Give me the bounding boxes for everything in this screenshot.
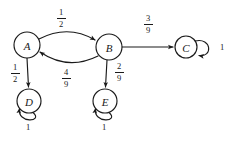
edge-label-b-to-e-numerator: 2	[111, 62, 127, 71]
edge-b-to-a	[40, 52, 98, 63]
edge-a-to-b	[39, 32, 95, 40]
edge-label-e-self-loop: 1	[98, 123, 110, 132]
edge-label-b-to-c-denominator: 9	[140, 25, 156, 34]
node-d-label: D	[24, 96, 33, 108]
node-e-label: E	[101, 96, 109, 108]
edge-label-a-to-b-numerator: 1	[53, 8, 69, 17]
node-c[interactable]: C	[175, 36, 197, 58]
edge-label-b-to-a-denominator: 9	[58, 79, 74, 88]
edge-label-b-to-a: 4 9	[58, 68, 74, 88]
edge-a-to-d	[27, 58, 29, 87]
edge-label-c-self-loop: 1	[216, 43, 228, 52]
state-transition-diagram: A B C D E 1 2 4 9 3 9 1	[0, 0, 236, 143]
edge-label-b-to-a-numerator: 4	[58, 68, 74, 77]
node-d[interactable]: D	[17, 89, 41, 113]
edge-label-b-to-c: 3 9	[140, 14, 156, 34]
edge-label-b-to-e-denominator: 9	[111, 73, 127, 82]
edge-label-b-to-c-numerator: 3	[140, 14, 156, 23]
edge-label-a-to-b: 1 2	[53, 8, 69, 28]
edge-label-b-to-e: 2 9	[111, 62, 127, 82]
edge-label-a-to-d-numerator: 1	[7, 63, 23, 72]
node-a-label: A	[23, 40, 31, 52]
node-b-label: B	[106, 42, 113, 54]
edge-b-to-e	[106, 60, 108, 87]
node-a[interactable]: A	[14, 32, 40, 58]
edge-label-a-to-d: 1 2	[7, 63, 23, 83]
node-b[interactable]: B	[96, 34, 122, 60]
edge-label-a-to-b-denominator: 2	[53, 19, 69, 28]
node-e[interactable]: E	[93, 89, 117, 113]
node-c-label: C	[182, 42, 190, 54]
edge-label-a-to-d-denominator: 2	[7, 74, 23, 83]
edge-label-d-self-loop: 1	[22, 123, 34, 132]
